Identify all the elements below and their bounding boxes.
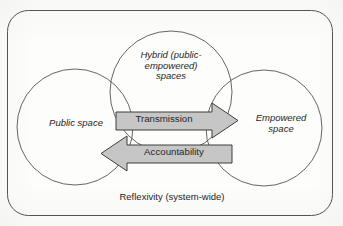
diagram-graphics bbox=[0, 0, 343, 226]
diagram-canvas: Public space Hybrid (public- empowered) … bbox=[0, 0, 343, 226]
transmission-arrow bbox=[116, 103, 238, 138]
accountability-arrow bbox=[101, 136, 232, 171]
